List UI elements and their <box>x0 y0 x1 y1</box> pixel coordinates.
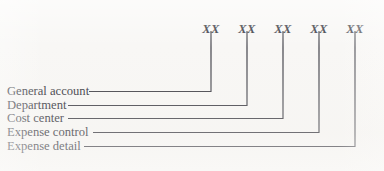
leader-line-department <box>68 31 247 106</box>
connector-path-group <box>68 31 355 147</box>
code-block-expense-detail: XX <box>346 22 363 37</box>
segment-label-expense-detail: Expense detail <box>7 140 81 153</box>
code-block-expense-control: XX <box>310 22 327 37</box>
account-code-structure-figure: XX XX XX XX XX General account Departmen… <box>0 0 384 171</box>
code-block-department: XX <box>238 22 255 37</box>
leader-line-general-account <box>89 31 211 92</box>
segment-label-general-account: General account <box>7 85 89 98</box>
code-block-cost-center: XX <box>274 22 291 37</box>
segment-label-department: Department <box>7 99 66 112</box>
code-block-general-account: XX <box>202 22 219 37</box>
segment-label-cost-center: Cost center <box>7 112 64 125</box>
leader-line-expense-detail <box>84 31 355 147</box>
segment-label-expense-control: Expense control <box>7 126 88 139</box>
leader-line-expense-control <box>93 31 319 133</box>
